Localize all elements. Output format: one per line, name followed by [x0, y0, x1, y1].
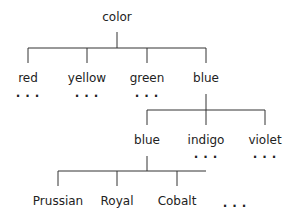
node-green: green	[130, 71, 165, 85]
node-color: color	[102, 10, 132, 24]
ellipsis-indigo: ...	[194, 149, 223, 159]
node-yellow: yellow	[68, 71, 106, 85]
ellipsis-green: ...	[135, 88, 164, 98]
node-prussian: Prussian	[33, 194, 83, 208]
node-red: red	[18, 71, 38, 85]
node-blue: blue	[193, 71, 219, 85]
ellipsis-blue-shades: ...	[223, 198, 252, 208]
ellipsis-violet: ...	[253, 149, 282, 159]
node-blue-sub: blue	[134, 133, 160, 147]
node-violet: violet	[248, 133, 281, 147]
node-indigo: indigo	[188, 133, 225, 147]
tree-connectors	[0, 0, 294, 219]
ellipsis-red: ...	[16, 88, 45, 98]
ellipsis-yellow: ...	[75, 88, 104, 98]
node-royal: Royal	[101, 194, 134, 208]
node-cobalt: Cobalt	[158, 194, 197, 208]
